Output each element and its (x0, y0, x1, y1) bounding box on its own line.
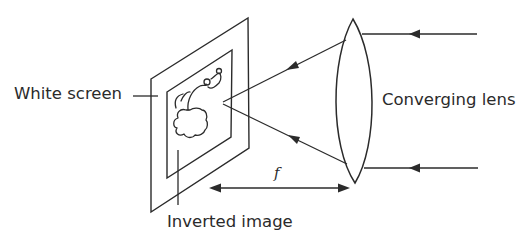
arrow-icon (286, 61, 299, 70)
converging-lens-label: Converging lens (382, 92, 516, 109)
converging-lens-icon (336, 19, 372, 183)
converging-ray-bottom (223, 104, 347, 164)
white-screen-label: White screen (14, 86, 122, 103)
arrow-icon (288, 135, 300, 144)
inverted-image-label: Inverted image (167, 214, 293, 231)
arrow-icon (338, 184, 350, 193)
converging-lens-diagram: White screen Converging lens Inverted im… (0, 0, 529, 244)
diagram-canvas (0, 0, 529, 244)
arrow-icon (209, 184, 221, 193)
white-screen-inner-frame (167, 50, 232, 178)
converging-ray-top (223, 40, 346, 102)
focal-length-label: f (274, 166, 280, 181)
white-screen-outer-frame (151, 18, 249, 212)
arrow-icon (409, 164, 420, 173)
inverted-image-icon (174, 69, 222, 138)
arrow-icon (409, 30, 420, 39)
